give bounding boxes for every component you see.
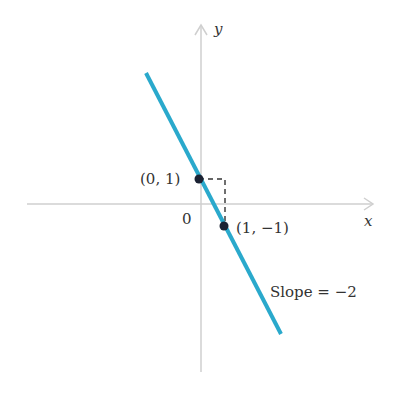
y-axis-label: y — [214, 22, 222, 37]
point-1-neg1 — [220, 222, 229, 231]
x-axis-label: x — [364, 214, 372, 229]
point-label-0-1: (0, 1) — [140, 172, 180, 187]
coordinate-plane — [0, 0, 400, 404]
point-0-1 — [195, 175, 204, 184]
origin-label: 0 — [182, 212, 192, 227]
point-label-1-neg1: (1, −1) — [236, 221, 289, 236]
slope-label: Slope = −2 — [270, 285, 357, 300]
